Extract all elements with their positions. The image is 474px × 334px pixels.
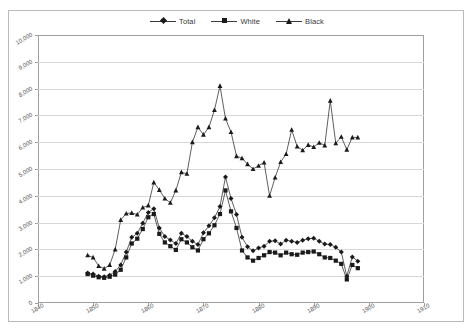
data-point [168,244,172,248]
data-point [289,127,294,132]
data-point [240,235,245,240]
data-point [306,250,310,254]
data-point [162,234,167,239]
data-point [328,256,332,260]
data-point [328,242,333,247]
data-point [245,244,250,249]
data-point [212,107,217,112]
data-point [284,251,288,255]
data-point [234,154,239,159]
data-point [179,170,184,175]
data-point [168,200,173,205]
data-point [306,142,311,147]
data-point [344,147,349,152]
data-point [301,251,305,255]
data-point [218,212,222,216]
data-point [102,266,107,271]
diamond-marker-icon [160,17,167,24]
data-point [135,237,139,241]
data-point [322,242,327,247]
legend-label-total: Total [179,17,195,26]
data-point [322,143,327,148]
data-point [212,223,216,227]
data-point [339,134,344,139]
data-point [306,236,311,241]
data-point [311,236,316,241]
data-point [85,253,90,258]
data-point [124,255,128,259]
data-point [268,250,272,254]
data-point [157,232,161,236]
data-point [151,206,156,211]
data-point [295,253,299,257]
y-tick-mark [35,196,38,197]
data-point [356,266,360,270]
data-point [119,268,123,272]
data-point [207,231,211,235]
y-tick-mark [35,223,38,224]
legend-label-white: White [240,17,260,26]
data-point [289,239,294,244]
data-point [151,180,156,185]
data-point [278,242,283,247]
data-point [108,275,112,279]
data-point [86,272,90,276]
data-point [312,249,316,253]
data-point [350,263,354,267]
y-tick-mark [35,142,38,143]
data-point [185,240,189,244]
legend-line-black [276,21,302,22]
data-point [229,196,234,201]
data-point [141,227,145,231]
data-point [317,252,321,256]
data-point [107,262,112,267]
data-point [129,210,134,215]
data-point [113,247,118,252]
data-point [290,252,294,256]
data-point [223,175,228,180]
y-tick-mark [35,35,38,36]
data-point [223,188,227,192]
figure-canvas: Total White Black 01,0002,0003,0004,0005… [0,0,474,334]
legend-item-total[interactable]: Total [150,17,195,26]
data-point [207,125,212,130]
data-point [152,212,156,216]
data-point [229,209,233,213]
legend-item-white[interactable]: White [211,17,260,26]
data-point [262,160,267,165]
data-point [130,241,134,245]
series-line [88,177,358,277]
y-tick-mark [35,249,38,250]
square-marker-icon [222,18,227,23]
data-point [295,144,300,149]
data-point [240,248,244,252]
data-point [223,116,228,121]
data-point [323,255,327,259]
data-point [256,256,260,260]
y-tick-mark [35,169,38,170]
legend-item-black[interactable]: Black [276,17,324,26]
data-point [284,238,289,243]
data-point [279,253,283,257]
data-point [146,215,150,219]
data-point [234,226,238,230]
data-point [173,241,178,246]
data-point [96,263,101,268]
data-point [334,259,338,263]
data-point [251,259,255,263]
data-point [196,248,200,252]
data-point [300,238,305,243]
data-point [168,238,173,243]
legend-line-white [211,21,237,22]
data-point [267,193,272,198]
legend-line-total [150,21,176,22]
data-point [129,235,134,240]
legend-label-black: Black [305,17,324,26]
data-point [234,212,239,217]
data-point [146,210,151,215]
data-point [174,248,178,252]
y-tick-mark [35,62,38,63]
y-tick-mark [35,115,38,116]
data-point [317,239,322,244]
plot-area-wrapper [38,35,424,303]
